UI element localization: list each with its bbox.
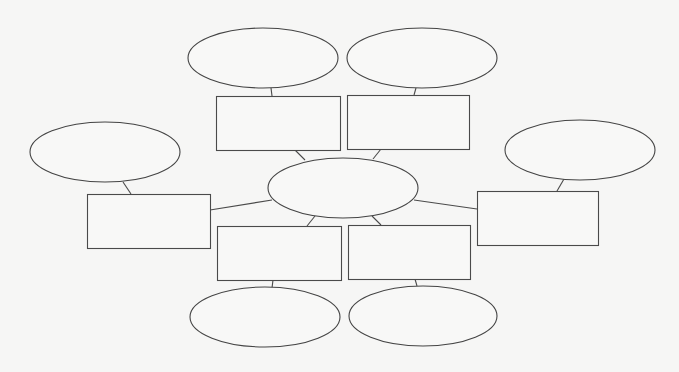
box-right[interactable]	[478, 192, 599, 246]
leaf-ellipse-top-right[interactable]	[347, 28, 497, 88]
connector-center-top-left-box	[295, 150, 305, 160]
box-bottom-left[interactable]	[218, 227, 342, 281]
leaf-ellipse-bottom-right[interactable]	[349, 286, 497, 346]
concept-map-diagram	[0, 0, 679, 372]
box-left[interactable]	[88, 195, 211, 249]
center-ellipse[interactable]	[268, 158, 418, 218]
leaf-ellipse-top-left[interactable]	[188, 28, 338, 88]
connector-center-right-box	[414, 200, 477, 209]
leaf-ellipse-bottom-left[interactable]	[190, 287, 340, 347]
connector-top-left	[271, 88, 272, 96]
connector-left	[123, 182, 131, 194]
box-top-left[interactable]	[217, 97, 341, 151]
connector-top-right	[414, 88, 416, 95]
leaf-ellipse-right[interactable]	[505, 120, 655, 180]
connector-center-left-box	[210, 200, 272, 210]
connector-right	[557, 179, 564, 191]
connector-center-bottom-right-box	[372, 216, 381, 225]
connector-center-bottom-left-box	[307, 216, 315, 226]
leaf-ellipse-left[interactable]	[30, 122, 180, 182]
concept-map-canvas	[0, 0, 679, 372]
box-bottom-right[interactable]	[349, 226, 471, 280]
box-top-right[interactable]	[348, 96, 470, 150]
connector-center-top-right-box	[373, 149, 381, 159]
